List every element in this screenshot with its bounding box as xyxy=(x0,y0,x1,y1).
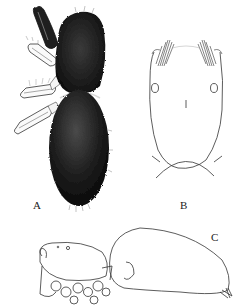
panel-b-carapace-view xyxy=(150,40,223,178)
eye-lateral xyxy=(66,246,69,249)
anterior-eye xyxy=(40,248,47,258)
spider-figure: A B C xyxy=(0,0,239,308)
panel-label-a: A xyxy=(33,200,41,211)
carapace-lateral xyxy=(40,242,107,280)
carapace-outline xyxy=(150,52,223,168)
figure-drawing xyxy=(0,0,239,308)
leg-1 xyxy=(33,6,58,48)
chelicera-left xyxy=(152,40,174,66)
abdomen-front-arc xyxy=(156,161,214,178)
spinnerets xyxy=(220,288,232,298)
clypeus-setae xyxy=(172,46,200,48)
panel-label-c: C xyxy=(211,232,218,243)
panel-a-dorsal-view xyxy=(14,6,113,212)
cephalothorax-dorsal xyxy=(55,12,105,95)
eye-right xyxy=(211,84,218,93)
panel-label-b: B xyxy=(180,200,187,211)
abdomen-dorsal xyxy=(49,90,109,206)
chelicera-right xyxy=(198,40,222,66)
panel-c-lateral-view xyxy=(40,228,232,304)
eye-left xyxy=(152,84,159,93)
leg-coxae xyxy=(40,266,110,304)
epigyne-fold xyxy=(124,262,134,279)
leg-3 xyxy=(20,76,62,98)
eye-small xyxy=(57,246,59,248)
